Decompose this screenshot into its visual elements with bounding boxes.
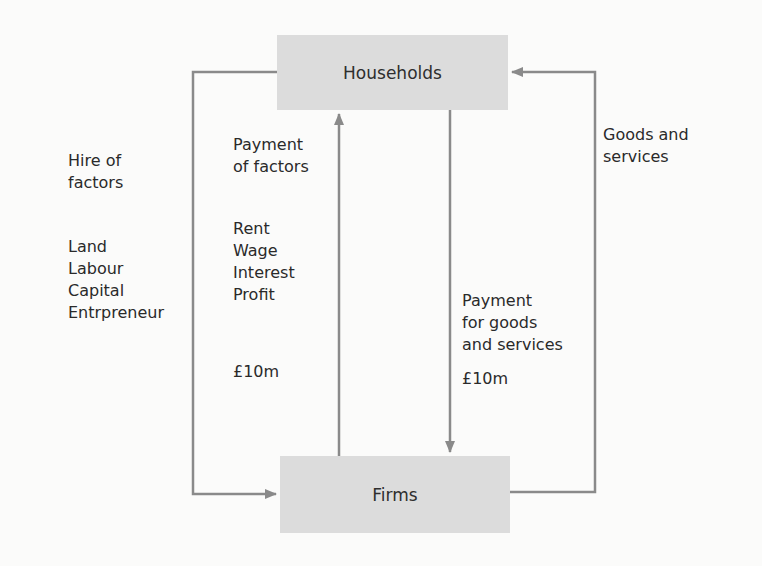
factor-payment-item: Interest	[233, 262, 295, 284]
goods-and-services-label: Goods and services	[603, 124, 689, 168]
firms-node: Firms	[280, 456, 510, 533]
factor-payments-list: Rent Wage Interest Profit	[233, 218, 295, 306]
factor-payment-item: Wage	[233, 240, 295, 262]
factor-amount: £10m	[233, 361, 279, 383]
goods-amount: £10m	[462, 368, 508, 390]
factor-item: Capital	[68, 280, 164, 302]
payment-of-factors-label: Payment of factors	[233, 134, 309, 178]
hire-of-factors-label: Hire of factors	[68, 150, 123, 194]
factors-list: Land Labour Capital Entrpreneur	[68, 236, 164, 324]
goods-and-services-arrow	[510, 72, 595, 492]
households-label: Households	[343, 63, 442, 83]
households-node: Households	[277, 35, 508, 110]
factor-payment-item: Profit	[233, 284, 295, 306]
factor-item: Entrpreneur	[68, 302, 164, 324]
payment-for-goods-label: Payment for goods and services	[462, 290, 563, 356]
firms-label: Firms	[372, 485, 417, 505]
factor-payment-item: Rent	[233, 218, 295, 240]
factor-item: Land	[68, 236, 164, 258]
factor-item: Labour	[68, 258, 164, 280]
